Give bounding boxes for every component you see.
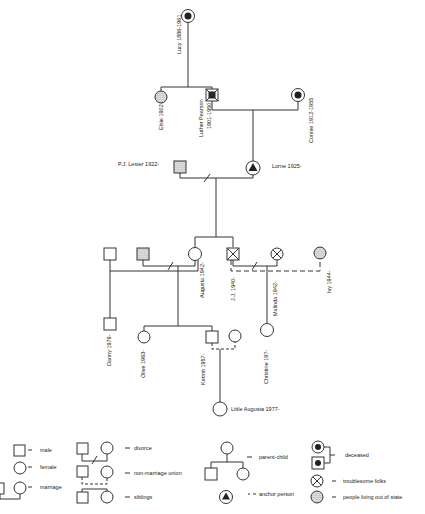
label-lorne: Lorne 1925- <box>272 163 302 169</box>
legend-anchor-person: anchor person <box>259 491 294 497</box>
label-lucy: Lucy 1886-1961 <box>176 15 182 54</box>
unnamed-male-symbol <box>104 248 116 260</box>
legend-deceased: deceased <box>345 452 369 458</box>
label-malinda: Malinda 1942- <box>272 281 278 316</box>
luther-symbol <box>206 89 218 101</box>
legend-marriage: marriage <box>40 484 62 490</box>
label-elsie: Elsie 1902- <box>158 102 164 130</box>
label-danny: Danny 1979- <box>106 335 112 367</box>
olive-symbol <box>138 331 150 343</box>
legend-male: male <box>40 447 52 453</box>
connie-symbol <box>292 89 305 102</box>
legend-troublesome: troublesome folks <box>343 478 386 484</box>
danny-symbol <box>104 318 116 330</box>
ivy-symbol <box>314 247 326 259</box>
little-augusta-symbol <box>213 402 227 416</box>
label-little-augusta: Little Augusta 1977- <box>231 406 280 412</box>
label-ivy: Ivy 1944- <box>326 270 332 293</box>
legend-out-of-state: people living out of state <box>343 494 402 500</box>
malinda-symbol <box>271 248 283 260</box>
unnamed-dotted-male-symbol <box>137 248 149 260</box>
legend-female: female <box>40 464 57 470</box>
label-olive: Olive 1963- <box>140 350 146 378</box>
label-christine: Christine 19?- <box>263 350 269 384</box>
legend-siblings: siblings <box>134 494 152 500</box>
label-kermit: Kermit 1957- <box>200 354 206 386</box>
lester-symbol <box>174 161 186 173</box>
legend-divorce: divorce <box>134 445 152 451</box>
kermit-partner-symbol <box>229 330 241 342</box>
label-lester: P.J. Lester 1922- <box>118 161 159 167</box>
legend-parent-child: parent-child <box>259 454 288 460</box>
jj-symbol <box>227 248 239 260</box>
label-jj: J.J. 1940- <box>230 277 236 301</box>
christine-symbol <box>261 324 274 337</box>
lucy-symbol <box>182 10 195 23</box>
label-augusta: Augusta 1942- <box>199 262 205 298</box>
label-luther-years: 1901-1950 <box>206 103 212 129</box>
genogram-diagram <box>0 0 425 514</box>
label-luther: Luther Pearson <box>198 99 204 137</box>
lorne-symbol <box>246 161 260 175</box>
label-connie: Connie 1912-1955 <box>308 98 314 143</box>
kermit-symbol <box>206 331 218 343</box>
legend-non-marriage-union: non-marriage union <box>134 470 182 476</box>
augusta-symbol <box>189 248 202 261</box>
